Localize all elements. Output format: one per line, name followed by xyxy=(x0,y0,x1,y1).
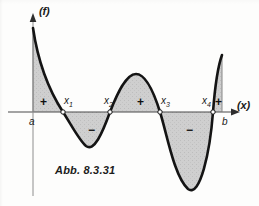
sign-label-region-5: + xyxy=(215,96,222,108)
endpoint-label-b: b xyxy=(222,117,228,127)
zero-marker-x3 xyxy=(158,110,162,114)
zero-label-x2: x2 xyxy=(104,96,113,108)
zero-label-x3-index: 3 xyxy=(166,101,170,108)
zero-label-x1-index: 1 xyxy=(69,101,73,108)
figure-caption: Abb. 8.3.31 xyxy=(55,165,115,176)
zero-marker-x2 xyxy=(108,110,112,114)
zero-label-x4-index: 4 xyxy=(207,101,211,108)
x-axis-label: (x) xyxy=(237,100,250,111)
positive-area-shading xyxy=(33,28,222,112)
zero-label-x4: x4 xyxy=(202,96,211,108)
zero-label-x3: x3 xyxy=(161,96,170,108)
zero-label-x1: x1 xyxy=(64,96,73,108)
zero-marker-x1 xyxy=(61,110,65,114)
sign-label-region-4: − xyxy=(186,124,193,136)
y-axis-label: (f) xyxy=(39,6,49,17)
figure-container: (f) (x) a b x1 x2 x3 x4 + − + − + Abb. 8… xyxy=(0,0,259,206)
sign-label-region-2: − xyxy=(88,124,95,136)
y-axis-arrowhead xyxy=(30,13,37,22)
sign-label-region-3: + xyxy=(137,96,144,108)
zero-marker-x4 xyxy=(211,110,215,114)
endpoint-label-a: a xyxy=(29,117,35,127)
zero-label-x2-index: 2 xyxy=(109,101,113,108)
sign-label-region-1: + xyxy=(40,96,47,108)
shaded-region-a-x1 xyxy=(33,28,63,112)
